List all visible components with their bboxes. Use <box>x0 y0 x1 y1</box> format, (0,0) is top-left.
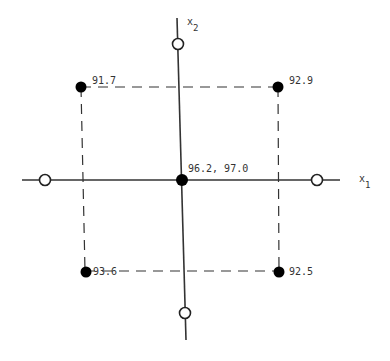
dashed-left-edge <box>81 87 85 271</box>
corner-point-bottom-right <box>274 267 285 278</box>
corner-point-bottom-left <box>81 267 92 278</box>
corner-point-top-left <box>76 82 87 93</box>
label-top-left: 91.7 <box>92 75 116 86</box>
x2-subscript: 2 <box>193 23 198 33</box>
dashed-right-edge <box>278 87 279 271</box>
x1-axis-label: x1 <box>359 173 370 190</box>
label-bottom-left: 93.6 <box>93 266 117 277</box>
center-point <box>176 174 188 186</box>
axial-point-left <box>40 175 51 186</box>
corner-point-top-right <box>273 82 284 93</box>
x1-subscript: 1 <box>365 180 370 190</box>
axial-point-right <box>312 175 323 186</box>
label-bottom-right: 92.5 <box>289 266 313 277</box>
label-top-right: 92.9 <box>289 75 313 86</box>
axial-point-top <box>173 39 184 50</box>
label-center: 96.2, 97.0 <box>188 163 248 174</box>
x2-axis-label: x2 <box>187 16 198 33</box>
ccd-diagram: 91.7 92.9 93.6 92.5 96.2, 97.0 x2 x1 <box>0 0 390 361</box>
axial-point-bottom <box>180 308 191 319</box>
